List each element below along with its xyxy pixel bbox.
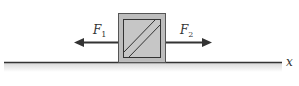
force-arrow-f2 xyxy=(166,38,212,47)
force-label-f1: F1 xyxy=(92,23,106,39)
x-axis-label: x xyxy=(286,55,293,69)
ground-shading xyxy=(4,63,282,72)
force-label-f2: F2 xyxy=(179,23,193,39)
block xyxy=(119,14,166,63)
force-diagram: x F1 F2 xyxy=(0,0,299,86)
force-arrow-f1 xyxy=(74,38,118,47)
diagram-svg: x F1 F2 xyxy=(0,0,299,86)
